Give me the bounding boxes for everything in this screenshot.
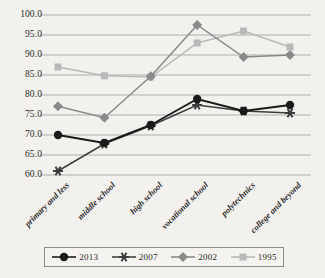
- data-point-asterisk: [53, 167, 63, 176]
- y-axis-tick-label: 70.0: [0, 129, 42, 139]
- data-point-circle: [60, 253, 68, 261]
- data-point-circle: [54, 131, 62, 139]
- y-axis-tick-label: 75.0: [0, 109, 42, 119]
- series-2013: [54, 95, 294, 147]
- legend-marker-square-icon: [230, 251, 256, 263]
- legend-marker-asterisk-icon: [111, 251, 137, 263]
- data-point-square: [287, 44, 294, 51]
- data-point-circle: [100, 139, 108, 147]
- chart-legend: 2013200720021995: [44, 247, 284, 267]
- data-point-square: [101, 72, 108, 79]
- legend-item-2007[interactable]: 2007: [111, 251, 158, 263]
- series-line: [58, 31, 290, 77]
- data-point-circle: [147, 121, 155, 129]
- y-axis-tick-label: 95.0: [0, 29, 42, 39]
- data-point-diamond: [285, 50, 295, 60]
- data-point-asterisk: [119, 253, 129, 262]
- y-axis-tick-label: 60.0: [0, 169, 42, 179]
- series-line: [58, 25, 290, 118]
- data-point-diamond: [239, 52, 249, 62]
- line-chart: 100.095.090.085.080.075.070.065.060.0 pr…: [0, 0, 325, 278]
- data-point-diamond: [178, 252, 188, 262]
- data-point-square: [239, 254, 246, 261]
- series-line: [58, 99, 290, 143]
- legend-item-label: 2002: [198, 252, 217, 262]
- legend-marker-circle-icon: [51, 251, 77, 263]
- data-point-asterisk: [285, 109, 295, 118]
- y-axis-tick-label: 65.0: [0, 149, 42, 159]
- data-point-square: [194, 40, 201, 47]
- y-axis-tick-label: 80.0: [0, 89, 42, 99]
- legend-item-2013[interactable]: 2013: [51, 251, 98, 263]
- legend-item-label: 1995: [258, 252, 277, 262]
- data-point-circle: [239, 107, 247, 115]
- chart-plot-area: [0, 0, 325, 278]
- data-point-square: [240, 28, 247, 35]
- y-axis-tick-label: 100.0: [0, 9, 42, 19]
- y-axis-tick-label: 90.0: [0, 49, 42, 59]
- gridlines: [40, 15, 311, 175]
- data-point-square: [55, 64, 62, 71]
- data-point-diamond: [53, 101, 63, 111]
- legend-marker-diamond-icon: [170, 251, 196, 263]
- legend-item-2002[interactable]: 2002: [170, 251, 217, 263]
- legend-item-label: 2013: [79, 252, 98, 262]
- data-point-circle: [286, 101, 294, 109]
- y-axis-tick-label: 85.0: [0, 69, 42, 79]
- legend-item-1995[interactable]: 1995: [230, 251, 277, 263]
- data-point-circle: [193, 95, 201, 103]
- legend-item-label: 2007: [139, 252, 158, 262]
